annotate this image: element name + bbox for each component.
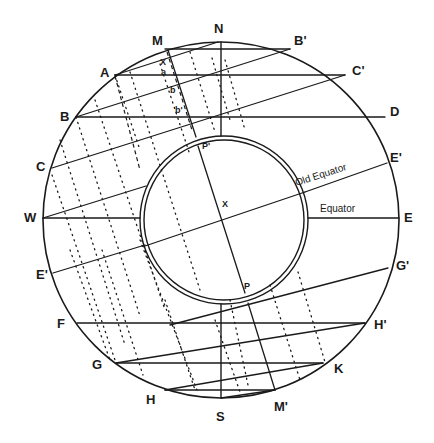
label-equator: Equator xyxy=(320,204,355,214)
label-N: N xyxy=(214,22,223,35)
label-W: W xyxy=(24,211,36,224)
dotted-line-11 xyxy=(102,250,143,375)
label-B: B xyxy=(60,110,69,123)
old-lat-G-Hp xyxy=(116,323,365,363)
label-H-prime: H' xyxy=(374,318,386,331)
label-S: S xyxy=(216,410,225,423)
label-C-prime: C' xyxy=(352,64,364,77)
label-D: D xyxy=(390,105,399,118)
dotted-line-12 xyxy=(70,250,110,360)
label-X-small: X xyxy=(160,58,166,67)
dotted-line-16 xyxy=(270,285,300,380)
old-equator-left xyxy=(53,245,145,273)
label-E-prime-left: E' xyxy=(36,268,48,281)
diagram-canvas xyxy=(0,0,434,443)
old-lat-S-Mp xyxy=(221,390,275,398)
label-X-center: X xyxy=(222,200,228,209)
dotted-line-9 xyxy=(140,240,197,390)
label-M-prime: M' xyxy=(274,400,288,413)
label-F: F xyxy=(57,317,65,330)
label-H: H xyxy=(146,393,155,406)
dotted-line-13 xyxy=(225,60,245,130)
label-a: a xyxy=(161,68,166,77)
label-E-prime-right: E' xyxy=(390,151,402,164)
dotted-line-10 xyxy=(165,300,195,390)
dashed-line-A xyxy=(115,75,165,390)
old-lat-W-D-left xyxy=(43,186,146,218)
label-P-prime: P' xyxy=(202,142,210,151)
old-axis-bottom xyxy=(248,303,275,390)
dotted-line-6 xyxy=(130,72,200,290)
old-lat-F-Gp xyxy=(203,268,388,295)
dotted-line-1 xyxy=(115,75,140,150)
label-G: G xyxy=(92,358,102,371)
label-B-prime: B' xyxy=(294,34,306,47)
dotted-line-2 xyxy=(76,117,140,316)
label-K: K xyxy=(334,362,343,375)
old-lat-A-N xyxy=(115,42,218,75)
label-E: E xyxy=(404,211,413,224)
label-G-prime: G' xyxy=(396,259,409,272)
label-C: C xyxy=(36,160,45,173)
label-b-prime: b' xyxy=(175,106,183,115)
label-b: b xyxy=(170,86,176,95)
label-M: M xyxy=(152,34,163,47)
label-A: A xyxy=(100,66,109,79)
label-P: P xyxy=(244,282,250,291)
old-lat-C-Cp xyxy=(52,75,345,168)
